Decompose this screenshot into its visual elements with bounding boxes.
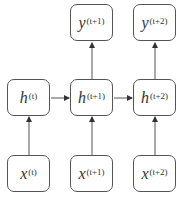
node-superscript: (t+2)	[150, 167, 168, 177]
node-label: x	[20, 166, 27, 182]
node-x-t0: x(t)	[7, 155, 50, 192]
node-label: y	[78, 15, 85, 31]
node-superscript: (t+1)	[87, 91, 105, 101]
node-label: y	[141, 15, 148, 31]
node-superscript: (t+1)	[87, 16, 105, 26]
node-label: h	[141, 90, 149, 106]
node-x-t2: x(t+2)	[133, 155, 176, 192]
node-h-t0: h(t)	[7, 79, 50, 116]
node-superscript: (t+1)	[87, 167, 105, 177]
node-y-t1: y(t+1)	[70, 4, 113, 41]
node-label: x	[78, 166, 85, 182]
node-h-t2: h(t+2)	[133, 79, 176, 116]
node-x-t1: x(t+1)	[70, 155, 113, 192]
node-superscript: (t)	[28, 167, 37, 177]
node-label: x	[141, 166, 148, 182]
node-superscript: (t)	[29, 91, 38, 101]
node-h-t1: h(t+1)	[70, 79, 113, 116]
node-superscript: (t+2)	[150, 91, 168, 101]
node-label: h	[20, 90, 28, 106]
node-superscript: (t+2)	[150, 16, 168, 26]
node-label: h	[78, 90, 86, 106]
node-y-t2: y(t+2)	[133, 4, 176, 41]
